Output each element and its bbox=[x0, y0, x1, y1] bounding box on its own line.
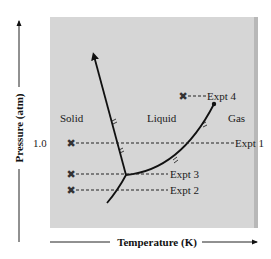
region-gas-label: Gas bbox=[228, 112, 245, 124]
cross-marker-icon: ✖ bbox=[178, 90, 187, 103]
y-tick-1-0: 1.0 bbox=[33, 137, 50, 149]
svg-text:Expt 4: Expt 4 bbox=[207, 90, 237, 102]
critical-point bbox=[212, 102, 216, 106]
svg-text:Expt 1: Expt 1 bbox=[235, 137, 264, 149]
cross-marker-icon: ✖ bbox=[66, 184, 75, 197]
y-axis-title: Pressure (atm) bbox=[13, 93, 26, 162]
y-axis: Pressure (atm) bbox=[12, 21, 26, 242]
phase-diagram: Pressure (atm) Temperature (K) 1.0 Solid… bbox=[0, 0, 271, 259]
cross-marker-icon: ✖ bbox=[66, 137, 75, 150]
experiment-expt4: ✖ Expt 4 bbox=[178, 90, 236, 103]
cross-marker-icon: ✖ bbox=[66, 168, 75, 181]
svg-text:1.0: 1.0 bbox=[33, 137, 47, 149]
region-solid-label: Solid bbox=[60, 112, 84, 124]
region-liquid-label: Liquid bbox=[147, 112, 177, 124]
svg-text:Expt 3: Expt 3 bbox=[170, 168, 200, 180]
x-axis-title: Temperature (K) bbox=[117, 236, 197, 249]
x-axis: Temperature (K) bbox=[50, 234, 257, 249]
svg-text:Expt 2: Expt 2 bbox=[170, 184, 199, 196]
